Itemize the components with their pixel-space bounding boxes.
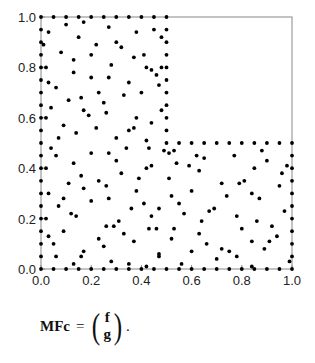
x-tick-label: 0.2 <box>82 273 100 288</box>
data-point <box>97 237 101 241</box>
data-point <box>82 249 86 253</box>
data-point <box>52 267 56 271</box>
data-point <box>257 197 261 201</box>
data-point <box>262 247 266 251</box>
data-point <box>39 192 43 196</box>
data-point <box>39 204 43 208</box>
data-point <box>47 234 51 238</box>
data-point <box>150 164 154 168</box>
data-point <box>89 15 93 19</box>
data-point <box>167 151 171 155</box>
data-point <box>215 141 219 145</box>
data-point <box>175 161 179 165</box>
data-point <box>140 267 144 271</box>
data-point <box>290 229 294 233</box>
data-point <box>220 247 224 251</box>
data-point <box>64 15 68 19</box>
data-point <box>39 242 43 246</box>
data-point <box>165 141 169 145</box>
data-point <box>165 40 169 44</box>
data-point <box>97 179 101 183</box>
y-tick-label: 0.2 <box>18 212 36 227</box>
data-point <box>190 249 194 253</box>
data-point <box>54 154 58 158</box>
data-point <box>142 202 146 206</box>
data-point <box>215 267 219 271</box>
data-point <box>157 83 161 87</box>
data-point <box>64 267 68 271</box>
data-point <box>165 28 169 32</box>
y-tick-label: 0.0 <box>18 262 36 277</box>
data-point <box>215 257 219 261</box>
data-point <box>232 154 236 158</box>
data-point <box>165 15 169 19</box>
data-point <box>237 181 241 185</box>
x-tick-label: 0.6 <box>183 273 201 288</box>
data-point <box>114 267 118 271</box>
data-point <box>172 227 176 231</box>
data-point <box>142 53 146 57</box>
data-point <box>124 146 128 150</box>
data-point <box>155 227 159 231</box>
data-point <box>250 192 254 196</box>
data-point <box>265 141 269 145</box>
data-point <box>290 267 294 271</box>
data-point <box>102 267 106 271</box>
data-point <box>165 78 169 82</box>
data-point <box>270 224 274 228</box>
data-point <box>44 217 48 221</box>
data-point <box>47 192 51 196</box>
data-point <box>260 149 264 153</box>
data-point <box>117 219 121 223</box>
x-tick-label: 1.0 <box>283 273 301 288</box>
vector-bottom: g <box>103 326 111 343</box>
data-point <box>104 224 108 228</box>
data-point <box>132 126 136 130</box>
data-point <box>107 151 111 155</box>
data-point <box>157 252 161 256</box>
data-point <box>265 159 269 163</box>
data-point <box>242 179 246 183</box>
data-point <box>240 227 244 231</box>
data-point <box>160 66 164 70</box>
data-point <box>197 169 201 173</box>
data-point <box>290 242 294 246</box>
data-point <box>145 66 149 70</box>
data-point <box>89 151 93 155</box>
data-points <box>39 15 294 271</box>
data-point <box>227 249 231 253</box>
data-point <box>165 66 169 70</box>
data-point <box>107 25 111 29</box>
data-point <box>39 141 43 145</box>
right-paren: ) <box>114 308 122 344</box>
data-point <box>62 229 66 233</box>
data-point <box>107 197 111 201</box>
data-point <box>275 234 279 238</box>
data-point <box>127 81 131 85</box>
data-point <box>288 260 292 264</box>
data-point <box>72 71 76 75</box>
data-point <box>89 267 93 271</box>
data-point <box>278 184 282 188</box>
data-point <box>177 202 181 206</box>
data-point <box>82 108 86 112</box>
data-point <box>250 239 254 243</box>
data-point <box>127 129 131 133</box>
data-point <box>150 68 154 72</box>
data-point <box>177 267 181 271</box>
data-point <box>290 217 294 221</box>
data-point <box>212 207 216 211</box>
data-point <box>155 73 159 77</box>
data-point <box>39 154 43 158</box>
data-point <box>205 242 209 246</box>
data-point <box>145 265 149 269</box>
data-point <box>74 214 78 218</box>
left-paren: ( <box>92 308 100 344</box>
data-point <box>104 184 108 188</box>
data-point <box>280 171 284 175</box>
data-point <box>227 267 231 271</box>
data-point <box>102 244 106 248</box>
data-point <box>109 260 113 264</box>
data-point <box>114 15 118 19</box>
formula: MFc = ( f g ) . <box>40 308 130 344</box>
